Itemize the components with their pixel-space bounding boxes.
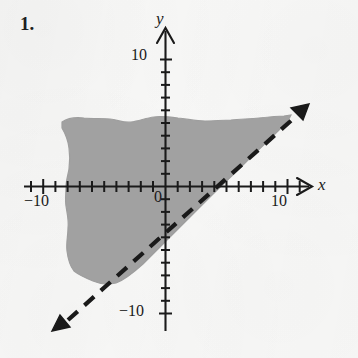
exercise-number: 1. bbox=[20, 13, 34, 35]
x-tick-label-positive-ten: 10 bbox=[271, 192, 287, 210]
x-tick-label-negative-ten: −10 bbox=[24, 192, 49, 210]
exercise-figure: 1. y x 10 −10 −10 10 0 bbox=[0, 0, 358, 358]
shaded-region bbox=[62, 115, 291, 284]
dashed-line-arrowhead-upper-right bbox=[291, 104, 309, 120]
y-axis-label: y bbox=[156, 9, 164, 29]
x-axis-label: x bbox=[318, 175, 326, 195]
coordinate-plane-graph bbox=[0, 0, 358, 358]
y-tick-label-negative-ten: −10 bbox=[119, 302, 144, 320]
origin-label: 0 bbox=[154, 188, 162, 206]
y-tick-label-positive-ten: 10 bbox=[131, 46, 147, 64]
shaded-region-group bbox=[62, 115, 291, 284]
dashed-line-arrowhead-lower-left bbox=[52, 315, 70, 331]
